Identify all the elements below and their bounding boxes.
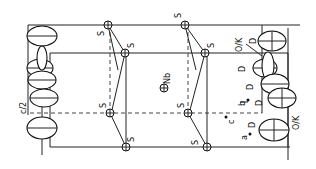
ellipsoid: [27, 26, 57, 46]
ok-label: O/K: [292, 115, 301, 130]
axes-indicator: b c a: [225, 99, 252, 141]
s-atom: [184, 109, 192, 117]
s-label: S: [191, 140, 200, 145]
sulfur-atoms: [104, 21, 211, 151]
bond: [190, 53, 205, 110]
nb-atom: Nb: [160, 73, 172, 92]
ellipsoid: [28, 71, 56, 89]
ok-label: O/K: [235, 37, 244, 52]
left-ellipsoids: c/2: [19, 26, 58, 155]
bond: [185, 25, 196, 70]
half-c-label: c/2: [19, 102, 28, 114]
s-label: S: [174, 13, 183, 18]
axis-c-dot: [225, 116, 228, 119]
bond: [108, 25, 125, 53]
ellipsoid: [268, 88, 296, 108]
s-atom: [106, 109, 114, 117]
s-atom: [203, 143, 211, 151]
s-label: S: [99, 103, 108, 108]
axis-b-label: b: [238, 101, 247, 106]
d-label: D: [246, 84, 255, 90]
nb-label: Nb: [163, 73, 172, 84]
s-label: S: [207, 43, 216, 48]
axis-c-label: c: [227, 120, 236, 124]
ellipsoid: [37, 46, 47, 70]
s-label: S: [97, 31, 106, 36]
axis-a-dot: [249, 133, 252, 136]
ellipsoid: [258, 31, 286, 51]
axis-a-label: a: [240, 135, 249, 140]
d-label: D: [255, 100, 264, 106]
s-label: S: [177, 103, 186, 108]
ellipsoid: [27, 117, 57, 139]
s-label: S: [127, 43, 136, 48]
d-label: D: [249, 38, 258, 44]
d-label: D: [238, 66, 247, 72]
bond: [110, 113, 126, 147]
ellipsoid: [30, 89, 58, 107]
d-label: D: [248, 122, 257, 128]
crystal-structure-diagram: S S S S S S S S Nb c/2 D O/K D: [0, 0, 316, 169]
s-atom: [121, 49, 129, 57]
ellipsoid: [259, 119, 289, 141]
s-atom: [104, 21, 112, 29]
s-atom: [122, 143, 130, 151]
bond: [112, 53, 125, 110]
s-atom: [201, 49, 209, 57]
s-label: S: [127, 137, 136, 142]
s-atom: [181, 21, 189, 29]
